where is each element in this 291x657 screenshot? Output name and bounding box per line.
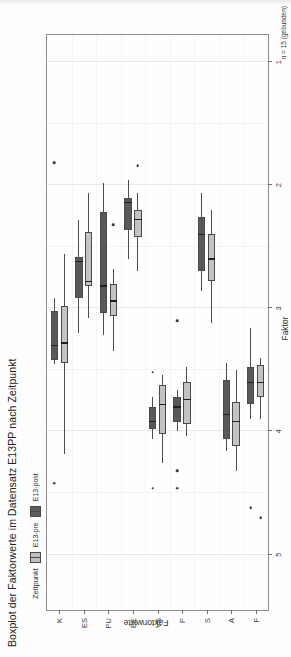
- median-line: [110, 300, 117, 301]
- boxplot-vs-post: [149, 35, 156, 610]
- category-axis-tick: [256, 610, 257, 614]
- gridline-horizontal: [145, 35, 146, 610]
- legend-swatch-e13-post: [30, 506, 41, 517]
- figure-caption: n = 15 (gebunden): [280, 6, 287, 59]
- value-axis-tick: [268, 61, 272, 62]
- median-line: [124, 202, 131, 203]
- boxplot-f-post: [247, 35, 254, 610]
- boxplot-vs-pre: [159, 35, 166, 610]
- category-axis-ticklabel-ee: EE: [128, 618, 137, 628]
- gridline-horizontal: [96, 35, 97, 610]
- box-rect: [75, 257, 82, 299]
- box-rect: [247, 367, 254, 404]
- category-axis-ticklabel-vs: VS: [153, 618, 162, 628]
- category-axis-tick: [207, 610, 208, 614]
- boxplot-a-pre: [232, 35, 239, 610]
- legend: Zeitpunkt E13-pre E13-post: [30, 473, 41, 599]
- boxplot-pu-pre: [110, 35, 117, 610]
- boxplot-f-pre: [257, 35, 264, 610]
- boxplot-k-post: [51, 35, 58, 610]
- box-rect: [198, 217, 205, 271]
- category-axis-ticklabel-p: P: [178, 618, 187, 623]
- box-rect: [134, 210, 141, 237]
- category-axis-tick: [158, 610, 159, 614]
- outlier-point: [137, 164, 140, 167]
- outlier-point: [151, 371, 154, 374]
- outlier-point: [176, 470, 179, 473]
- outlier-point: [112, 223, 115, 226]
- median-line: [61, 342, 68, 343]
- outlier-point: [53, 162, 56, 165]
- boxplot-es-post: [75, 35, 82, 610]
- median-line: [247, 382, 254, 383]
- median-line: [173, 406, 180, 407]
- value-axis-ticklabel: 4: [274, 429, 283, 433]
- category-axis-tick: [108, 610, 109, 614]
- category-axis-ticklabel-f: F: [251, 618, 260, 623]
- gridline-horizontal: [170, 35, 171, 610]
- boxplot-p-pre: [183, 35, 190, 610]
- value-axis-tick: [268, 307, 272, 308]
- boxplot-ee-post: [124, 35, 131, 610]
- legend-swatch-e13-pre: [30, 552, 41, 563]
- box-rect: [100, 212, 107, 313]
- median-line: [51, 345, 58, 346]
- median-line: [149, 421, 156, 422]
- category-axis-ticklabel-s: S: [202, 618, 211, 623]
- median-line: [159, 404, 166, 405]
- category-axis-tick: [133, 610, 134, 614]
- median-line: [232, 421, 239, 422]
- screenshot-root: Boxplot der Faktorwerte im Datensatz E13…: [0, 0, 291, 657]
- category-axis-tick: [84, 610, 85, 614]
- box-rect: [232, 402, 239, 446]
- outlier-point: [53, 482, 56, 485]
- median-line: [198, 234, 205, 235]
- legend-label-e13-pre: E13-pre: [32, 522, 39, 547]
- value-axis-ticklabel: 2: [274, 183, 283, 187]
- category-axis-tick: [182, 610, 183, 614]
- median-line: [183, 399, 190, 400]
- gridline-horizontal: [219, 35, 220, 610]
- median-line: [100, 286, 107, 287]
- category-axis-tick: [231, 610, 232, 614]
- value-axis-tick: [268, 430, 272, 431]
- category-axis-tick: [59, 610, 60, 614]
- boxplot-k-pre: [61, 35, 68, 610]
- legend-title: Zeitpunkt: [31, 568, 40, 599]
- box-rect: [149, 407, 156, 429]
- box-rect: [173, 397, 180, 422]
- figure-title: Boxplot der Faktorwerte im Datensatz E13…: [6, 358, 18, 647]
- value-axis-ticklabel: 1: [274, 60, 283, 64]
- gridline-horizontal: [121, 35, 122, 610]
- outlier-point: [151, 487, 154, 490]
- boxplot-p-post: [173, 35, 180, 610]
- outlier-point: [250, 507, 253, 510]
- category-axis-ticklabel-a: A: [227, 618, 236, 623]
- median-line: [257, 382, 264, 383]
- outlier-point: [176, 487, 179, 490]
- box-rect: [223, 380, 230, 439]
- boxplot-ee-pre: [134, 35, 141, 610]
- value-axis-tick: [268, 554, 272, 555]
- box-rect: [159, 385, 166, 434]
- box-rect: [183, 382, 190, 424]
- outlier-point: [176, 319, 179, 322]
- category-axis-ticklabel-es: ES: [79, 618, 88, 628]
- value-axis-ticklabel: 5: [274, 553, 283, 557]
- gridline-horizontal: [194, 35, 195, 610]
- median-line: [134, 219, 141, 220]
- boxplot-s-post: [198, 35, 205, 610]
- boxplot-a-post: [223, 35, 230, 610]
- box-rect: [61, 306, 68, 363]
- boxplot-pu-post: [100, 35, 107, 610]
- rotated-figure-wrapper: Boxplot der Faktorwerte im Datensatz E13…: [0, 0, 291, 657]
- category-axis-ticklabel-pu: PU: [104, 618, 113, 628]
- legend-label-e13-post: E13-post: [32, 473, 39, 501]
- category-axis-label: Faktor: [280, 0, 290, 657]
- box-rect: [85, 232, 92, 286]
- gridline-horizontal: [72, 35, 73, 610]
- gridline-horizontal: [243, 35, 244, 610]
- boxplot-figure: Boxplot der Faktorwerte im Datensatz E13…: [0, 0, 291, 657]
- value-axis-tick: [268, 184, 272, 185]
- value-axis-ticklabel: 3: [274, 306, 283, 310]
